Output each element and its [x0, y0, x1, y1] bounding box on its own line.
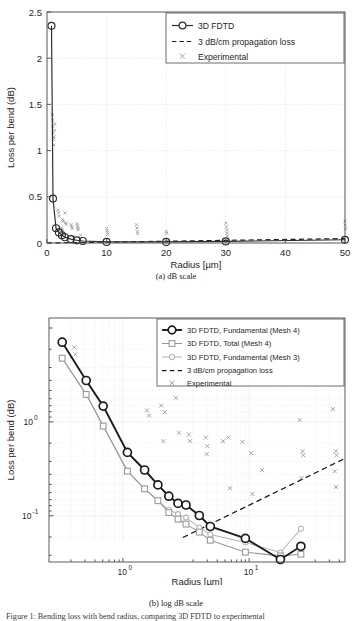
legend-b-label-1: 3D FDTD, Total (Mesh 4)	[187, 339, 272, 348]
axis-b-y-tick-1e0: 10 0	[24, 414, 38, 427]
axis-a-x-tick-0: 0	[44, 247, 49, 258]
series-a-experimental-scatter	[51, 113, 347, 238]
svg-text:10: 10	[118, 567, 128, 577]
axis-b-x-tick-1e1: 10 1	[244, 564, 259, 577]
axis-b-x-tick-1e0: 10 0	[118, 564, 133, 577]
axis-a-y-tick-1.5: 1.5	[29, 99, 42, 110]
legend-b-marker-circle-bold	[168, 326, 176, 334]
legend-b: 3D FDTD, Fundamental (Mesh 4) 3D FDTD, T…	[157, 319, 344, 388]
chart-b-svg: 10 0 10 -1	[0, 300, 352, 585]
caption-panel-a: (a) dB scale	[0, 271, 352, 281]
legend-a-label-0: 3D FDTD	[198, 21, 234, 31]
svg-text:1: 1	[255, 564, 259, 571]
axis-a-x-tick-50: 50	[340, 247, 351, 258]
axis-a-x-tick-40: 40	[280, 247, 291, 258]
figure-bending-loss: 0 0.5 1 1.5 2 2.5 0 10 20 30 40 50 Radiu…	[0, 0, 352, 621]
legend-b-label-3: 3 dB/cm propagation loss	[187, 366, 273, 375]
chart-panel-b-log-db-scale: 10 0 10 -1	[0, 300, 352, 585]
axis-b-y-tick-1e-1: 10 -1	[22, 508, 39, 521]
svg-text:10: 10	[22, 511, 32, 521]
axis-b-y	[49, 328, 54, 555]
axis-a-x-label: Radius [µm]	[171, 259, 222, 270]
legend-a-label-2: Experimental	[198, 52, 248, 62]
figure-bottom-caption: Figure 1: Bending loss with bend radius,…	[0, 612, 352, 621]
axis-a-y-tick-0: 0	[37, 238, 42, 249]
axis-a-y-tick-1: 1	[37, 145, 42, 156]
axis-a-x-tick-20: 20	[161, 247, 172, 258]
legend-a-label-1: 3 dB/cm propagation loss	[198, 37, 295, 47]
legend-a: 3D FDTD 3 dB/cm propagation loss Experim…	[166, 13, 344, 63]
axis-a-y	[47, 12, 51, 243]
caption-panel-b: (b) log dB scale	[0, 598, 352, 608]
series-b-mesh3-fundamental-line	[62, 358, 301, 552]
axis-b-x-label: Radius [µm]	[172, 576, 223, 585]
series-b-mesh4-total-line	[62, 358, 301, 556]
svg-text:10: 10	[24, 417, 34, 427]
legend-b-label-2: 3D FDTD, Fundamental (Mesh 3)	[187, 353, 300, 362]
axis-a-y-tick-2.5: 2.5	[29, 7, 42, 18]
svg-text:10: 10	[244, 567, 254, 577]
axis-a-x-tick-30: 30	[221, 247, 232, 258]
legend-b-marker-square	[169, 341, 175, 347]
legend-a-marker-circle	[179, 22, 186, 29]
axis-b-x	[71, 558, 339, 562]
legend-b-marker-circle-small	[169, 354, 174, 359]
axis-a-y-tick-0.5: 0.5	[29, 191, 42, 202]
legend-b-label-4: Experimental	[187, 379, 232, 388]
axis-b-y-label: Loss per bend (dB)	[5, 400, 16, 481]
svg-text:-1: -1	[33, 508, 39, 515]
legend-b-label-0: 3D FDTD, Fundamental (Mesh 4)	[187, 326, 300, 335]
axis-a-y-label: Loss per bend (dB)	[5, 87, 16, 168]
axis-a-y-tick-2: 2	[37, 53, 42, 64]
chart-a-svg: 0 0.5 1 1.5 2 2.5 0 10 20 30 40 50 Radiu…	[0, 0, 352, 270]
axis-a-x-tick-10: 10	[101, 247, 112, 258]
chart-panel-a-db-scale: 0 0.5 1 1.5 2 2.5 0 10 20 30 40 50 Radiu…	[0, 0, 352, 270]
svg-text:0: 0	[34, 414, 38, 421]
svg-text:0: 0	[129, 564, 133, 571]
